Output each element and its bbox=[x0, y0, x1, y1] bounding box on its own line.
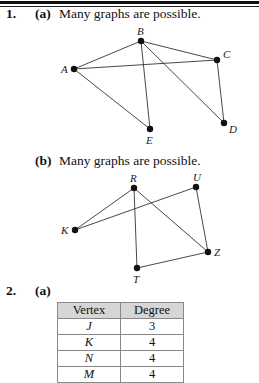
degree-cell: 4 bbox=[121, 335, 184, 351]
graph-1a-edge-A-E bbox=[74, 69, 150, 129]
vertex-cell: J bbox=[58, 319, 121, 335]
graph-1b-vertex-label-R: R bbox=[129, 172, 137, 184]
graph-1a-vertex-D bbox=[221, 120, 227, 126]
graph-1a-vertex-B bbox=[138, 38, 144, 44]
graph-1a-edge-C-D bbox=[217, 60, 224, 123]
graph-1b-edge-R-T bbox=[134, 188, 137, 268]
graph-1b-vertex-R bbox=[131, 185, 137, 191]
graph-1a-edge-B-C bbox=[141, 41, 217, 60]
degree-cell: 4 bbox=[121, 367, 184, 383]
graph-1a-vertex-label-E: E bbox=[145, 134, 153, 146]
graph-1a-vertex-C bbox=[214, 57, 220, 63]
graph-1b-vertex-label-T: T bbox=[133, 273, 140, 285]
degree-table: Vertex Degree J 3 K 4 N 4 M 4 bbox=[57, 302, 184, 383]
graph-1a-edge-B-E bbox=[141, 41, 150, 129]
graph-1b-edge-U-Z bbox=[196, 187, 208, 252]
problem-2-number: 2. bbox=[6, 283, 16, 298]
table-row: J 3 bbox=[58, 319, 184, 335]
graph-1b-edge-T-Z bbox=[137, 252, 208, 268]
graph-1a-vertex-E bbox=[147, 126, 153, 132]
graph-1a-edge-A-B bbox=[74, 41, 141, 69]
graph-1b-vertex-label-U: U bbox=[193, 171, 202, 183]
vertex-cell: K bbox=[58, 335, 121, 351]
vertex-cell: N bbox=[58, 351, 121, 367]
graph-1b-vertex-U bbox=[193, 184, 199, 190]
table-row: M 4 bbox=[58, 367, 184, 383]
graph-1a-vertex-label-D: D bbox=[228, 123, 237, 135]
degree-cell: 4 bbox=[121, 351, 184, 367]
graph-1b: RUKZT bbox=[60, 171, 221, 285]
graph-1a-vertex-label-A: A bbox=[60, 63, 68, 75]
table-row: N 4 bbox=[58, 351, 184, 367]
graph-1a: ABCDE bbox=[60, 25, 237, 146]
graph-1b-vertex-T bbox=[134, 265, 140, 271]
graph-1a-vertex-label-B: B bbox=[137, 25, 144, 37]
degree-table-header: Vertex Degree bbox=[58, 303, 184, 319]
graph-1a-vertex-label-C: C bbox=[223, 48, 231, 60]
header-degree: Degree bbox=[121, 303, 184, 319]
graph-1a-vertex-A bbox=[71, 66, 77, 72]
graph-1b-edge-R-Z bbox=[134, 188, 208, 252]
header-vertex: Vertex bbox=[58, 303, 121, 319]
graph-1b-vertex-Z bbox=[205, 249, 211, 255]
graph-1b-vertex-label-Z: Z bbox=[214, 246, 221, 258]
graph-1a-edge-B-D bbox=[141, 41, 224, 123]
degree-cell: 3 bbox=[121, 319, 184, 335]
graph-1b-edge-K-R bbox=[75, 188, 134, 230]
graph-1a-edge-A-C bbox=[74, 60, 217, 69]
vertex-cell: M bbox=[58, 367, 121, 383]
problem-2a-label: (a) bbox=[35, 283, 51, 298]
table-row: K 4 bbox=[58, 335, 184, 351]
graph-1b-vertex-label-K: K bbox=[60, 224, 69, 236]
graph-1b-vertex-K bbox=[72, 227, 78, 233]
